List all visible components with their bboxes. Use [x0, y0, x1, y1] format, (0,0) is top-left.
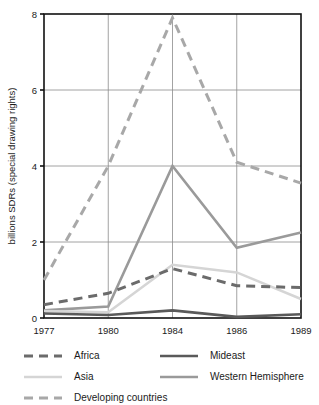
legend-label-mideast: Mideast	[210, 350, 245, 361]
chart-legend: AfricaMideastAsiaWestern HemisphereDevel…	[24, 350, 304, 403]
y-axis-ticks: 02468	[32, 9, 44, 324]
x-tick-label: 1984	[162, 325, 183, 336]
x-axis-ticks: 19771980198419861989	[33, 325, 311, 336]
legend-label-developing-countries: Developing countries	[74, 392, 167, 403]
line-chart: 02468 19771980198419861989 billions SDRs…	[0, 0, 319, 405]
x-tick-label: 1980	[98, 325, 119, 336]
y-tick-label: 2	[32, 237, 37, 248]
x-tick-label: 1977	[33, 325, 54, 336]
legend-label-africa: Africa	[74, 350, 100, 361]
chart-container: 02468 19771980198419861989 billions SDRs…	[0, 0, 319, 405]
legend-label-asia: Asia	[74, 371, 94, 382]
y-tick-label: 4	[32, 161, 37, 172]
y-tick-label: 0	[32, 313, 37, 324]
x-tick-label: 1989	[290, 325, 311, 336]
y-tick-label: 6	[32, 85, 37, 96]
y-axis-title: billions SDRs (special drawing rights)	[6, 88, 17, 245]
x-tick-label: 1986	[226, 325, 247, 336]
y-tick-label: 8	[32, 9, 37, 20]
legend-label-western-hemisphere: Western Hemisphere	[210, 371, 304, 382]
